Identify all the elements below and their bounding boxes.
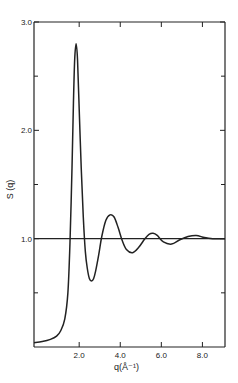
y-axis-label: S (q) [5,180,15,200]
x-tick-label: 4.0 [115,351,127,360]
x-tick-label: 2.0 [74,351,86,360]
series-line-s-of-q [34,44,225,343]
plot-frame [34,22,225,347]
ticks: 2.04.06.08.01.02.03.0 [21,18,225,360]
y-tick-label: 3.0 [21,18,33,27]
chart-svg: 2.04.06.08.01.02.03.0 S (q) q(Å⁻¹) [0,0,238,383]
y-tick-label: 2.0 [21,126,33,135]
y-tick-label: 1.0 [21,235,33,244]
x-tick-label: 6.0 [156,351,168,360]
x-tick-label: 8.0 [197,351,209,360]
x-axis-label: q(Å⁻¹) [114,362,139,372]
